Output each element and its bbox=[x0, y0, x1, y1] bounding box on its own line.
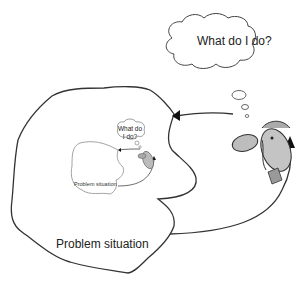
inner-arrowhead-top-icon bbox=[118, 148, 121, 152]
inner-arrow-face-to-problem bbox=[119, 149, 140, 150]
person-face-icon bbox=[230, 121, 296, 184]
thought-bubble-medium bbox=[242, 105, 249, 110]
small-thought-line2: I do? bbox=[117, 133, 143, 141]
small-person-face-icon bbox=[138, 150, 156, 170]
outer-region-label: Problem situation bbox=[56, 237, 149, 251]
small-thought-line1: What do bbox=[117, 125, 143, 133]
thought-bubble-small bbox=[245, 115, 249, 118]
small-thought-text: What do I do? bbox=[117, 125, 143, 141]
arrowhead-top-icon bbox=[172, 110, 180, 121]
arrow-face-to-problem bbox=[176, 113, 233, 116]
small-thought-bubble-2 bbox=[139, 146, 141, 148]
small-thought-bubble-1 bbox=[135, 141, 139, 145]
inner-region-label: Problem situation bbox=[74, 181, 117, 187]
big-thought-text: What do I do? bbox=[197, 34, 272, 48]
thought-bubble-large bbox=[232, 91, 246, 100]
